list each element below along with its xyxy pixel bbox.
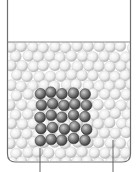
solvent-particle (50, 157, 61, 168)
solute-particle (46, 110, 57, 121)
solute-particle (68, 110, 79, 121)
solvent-particle (99, 89, 110, 100)
solvent-particle (77, 51, 88, 62)
solvent-particle (93, 158, 104, 169)
solute-particle (56, 112, 67, 123)
solute-particle (47, 122, 58, 133)
solvent-particle (115, 157, 126, 168)
solvent-particle (92, 99, 103, 110)
solute-particle (36, 100, 47, 111)
solute-particle (35, 112, 46, 123)
solvent-particle (126, 156, 137, 167)
solvent-particle (99, 127, 110, 138)
solute-particle (69, 121, 80, 132)
solvent-particle (127, 42, 137, 53)
solute-particle (81, 124, 92, 135)
solvent-particle (93, 137, 104, 148)
solute-particle (68, 133, 79, 144)
solvent-particle (32, 146, 43, 157)
solute-particle (81, 100, 92, 111)
solute-particle (68, 88, 79, 99)
solvent-particle (104, 117, 115, 128)
solute-cluster (35, 87, 92, 146)
solute-particle (46, 87, 57, 98)
solvent-particle (83, 60, 94, 71)
solvent-particle (49, 60, 60, 71)
solvent-particle (11, 69, 22, 80)
solute-particle (35, 88, 46, 99)
solute-particle (59, 124, 70, 135)
solvent-particle (87, 70, 98, 81)
solvent-particle (93, 61, 104, 72)
solvent-particle (65, 147, 76, 158)
solvent-particle (66, 69, 77, 80)
solvent-particle (115, 79, 126, 90)
beaker-diagram (0, 0, 137, 172)
solute-particle (59, 100, 70, 111)
solvent-particle (110, 89, 121, 100)
solvent-particle (99, 71, 110, 82)
solute-particle (69, 99, 80, 110)
solvent-particle (38, 60, 49, 71)
solute-particle (56, 135, 67, 146)
solvent-particle (21, 71, 32, 82)
solvent-particle (127, 138, 137, 149)
solvent-particle (4, 138, 15, 149)
solute-particle (57, 88, 68, 99)
solvent-particle (105, 137, 116, 148)
solvent-particle (126, 60, 137, 71)
solute-particle (46, 134, 57, 145)
solute-particle (47, 98, 58, 109)
solute-particle (35, 135, 46, 146)
solvent-particle (23, 89, 34, 100)
solvent-particle (99, 51, 110, 62)
solute-particle (80, 111, 91, 122)
solvent-particle (100, 148, 111, 159)
solvent-particle (105, 158, 116, 169)
solvent-particle (109, 147, 120, 158)
solvent-particle (16, 138, 27, 149)
solvent-particle (4, 100, 15, 111)
solute-particle (36, 123, 47, 134)
solvent-particle (66, 50, 77, 61)
solvent-particle (10, 128, 21, 139)
solute-particle (80, 89, 91, 100)
solute-particle (80, 135, 91, 146)
solvent-particle (127, 99, 137, 110)
solvent-particle (23, 50, 34, 61)
